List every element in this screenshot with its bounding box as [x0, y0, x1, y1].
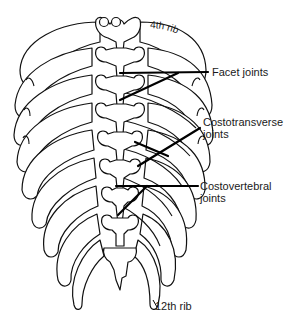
label-facet-joints: Facet joints	[212, 66, 268, 78]
label-12th-rib: 12th rib	[155, 300, 192, 312]
label-costotransverse: Costotransverse joints	[203, 116, 283, 140]
spine-illustration: 4th rib	[0, 0, 291, 323]
label-costotransverse-line2: joints	[203, 128, 283, 140]
label-costovertebral-line1: Costovertebral	[200, 180, 272, 192]
spine-rib-diagram: 4th rib Facet joints Costotransverse joi…	[0, 0, 291, 323]
label-costovertebral: Costovertebral joints	[200, 180, 272, 204]
facet-leader-1	[120, 72, 208, 73]
ribs-right	[134, 22, 213, 309]
label-costotransverse-line1: Costotransverse	[203, 116, 283, 128]
label-costovertebral-line2: joints	[200, 192, 272, 204]
ribs-left	[14, 22, 104, 309]
